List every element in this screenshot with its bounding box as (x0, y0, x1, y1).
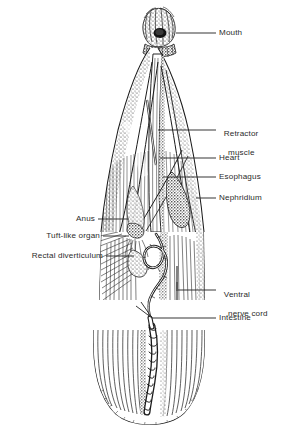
lower-body-section (92, 318, 208, 430)
label-rectal-diverticulum: Rectal diverticulum (0, 251, 103, 260)
label-esophagus: Esophagus (219, 172, 261, 181)
label-anus: Anus (0, 214, 95, 223)
label-intestine: Intestine (219, 313, 251, 322)
label-tuft-like-organ: Tuft-like organ (0, 231, 100, 240)
label-retractor-muscle-line1: Retractor (224, 129, 259, 138)
label-ventral-nerve-cord-line1: Ventral (224, 290, 250, 299)
label-nephridium: Nephridium (219, 193, 262, 202)
label-heart: Heart (219, 153, 240, 162)
label-mouth: Mouth (219, 28, 242, 37)
leader-intestine-branch-b (141, 302, 152, 318)
